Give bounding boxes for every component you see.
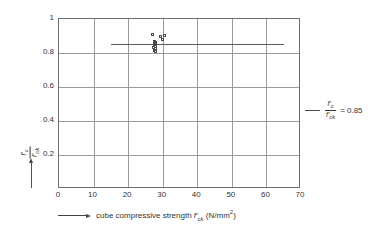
x-axis-label: cube compressive strength f'ck (N/mm2) bbox=[58, 206, 236, 224]
x-axis-tick-label: 20 bbox=[115, 190, 139, 200]
y-axis-tick-label: 0.6 bbox=[24, 82, 54, 90]
y-axis-tick-label: 0.8 bbox=[24, 48, 54, 56]
gridline-horizontal bbox=[59, 87, 299, 88]
plot-area bbox=[58, 18, 300, 188]
x-axis-tick-label: 40 bbox=[184, 190, 208, 200]
y-axis-tick-label: 0.4 bbox=[24, 116, 54, 124]
chart-root: 010203040506070 0.20.40.60.81 cube compr… bbox=[0, 0, 371, 229]
gridline-horizontal bbox=[59, 121, 299, 122]
x-axis-tick-label: 70 bbox=[288, 190, 312, 200]
y-axis-label: f'c f'ck bbox=[10, 128, 50, 188]
y-axis-fraction-numerator: f'c bbox=[20, 148, 30, 156]
legend-value: 0.85 bbox=[347, 106, 363, 115]
gridline-horizontal bbox=[59, 53, 299, 54]
data-point-marker bbox=[154, 50, 157, 53]
x-axis-tick-label: 30 bbox=[150, 190, 174, 200]
legend: f'c f'ck = 0.85 bbox=[305, 100, 363, 121]
x-axis-symbol: f'ck bbox=[194, 211, 204, 220]
data-point-marker bbox=[151, 33, 154, 36]
x-axis-tick-label: 50 bbox=[219, 190, 243, 200]
legend-fraction-denominator: f'ck bbox=[325, 110, 336, 121]
legend-fraction: f'c f'ck bbox=[325, 100, 336, 121]
y-axis-arrow-icon bbox=[28, 158, 36, 188]
x-axis-units: (N/mm2) bbox=[206, 211, 236, 220]
y-axis-fraction: f'c f'ck bbox=[20, 147, 41, 158]
gridline-vertical bbox=[94, 19, 95, 187]
y-axis-tick-label: 1 bbox=[24, 14, 54, 22]
reference-line bbox=[111, 44, 284, 46]
x-axis-tick-label: 10 bbox=[81, 190, 105, 200]
x-axis-label-text: cube compressive strength bbox=[96, 211, 192, 220]
x-axis-tick-label: 60 bbox=[253, 190, 277, 200]
legend-line-swatch bbox=[305, 110, 320, 112]
y-axis-fraction-denominator: f'ck bbox=[30, 147, 41, 158]
x-axis-arrow-icon bbox=[58, 214, 91, 218]
legend-fraction-numerator: f'c bbox=[327, 100, 335, 110]
gridline-horizontal bbox=[59, 155, 299, 156]
data-point-marker bbox=[161, 38, 164, 41]
x-axis-tick-label: 0 bbox=[46, 190, 70, 200]
legend-equals-sign: = bbox=[340, 106, 345, 115]
